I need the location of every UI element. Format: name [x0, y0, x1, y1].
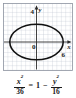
left-numerator-exponent: 2 [21, 74, 24, 79]
minus-sign: − [42, 82, 49, 90]
left-denominator: 36 [15, 88, 25, 96]
ellipse-equation: x2 36 = 1 − y2 16 [0, 74, 76, 98]
equation-row: x2 36 = 1 − y2 16 [14, 76, 61, 96]
x-intercept-label: 6 [62, 51, 66, 59]
origin-label: 0 [32, 43, 36, 51]
y-intercept-label: 4 [30, 8, 34, 16]
ellipse-plot-svg: y 4 0 x 6 [3, 3, 73, 71]
plot-area: y 4 0 x 6 [3, 3, 73, 71]
y-axis-label: y [38, 6, 42, 13]
right-numerator: y2 [52, 76, 60, 86]
right-fraction: y2 16 [51, 76, 62, 96]
equals-sign: = [27, 82, 34, 90]
left-fraction: x2 36 [14, 76, 25, 96]
right-denominator: 16 [51, 88, 61, 96]
x-axis-label: x [66, 43, 71, 50]
ellipse-graph-figure: y 4 0 x 6 x2 36 = 1 − y2 16 [0, 0, 76, 98]
left-numerator: x2 [16, 76, 25, 86]
right-constant: 1 [36, 82, 40, 90]
right-numerator-exponent: 2 [57, 74, 60, 79]
